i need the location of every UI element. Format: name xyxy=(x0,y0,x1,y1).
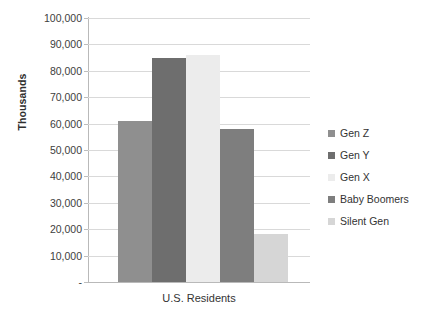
legend-swatch-icon xyxy=(328,152,335,159)
legend-label: Gen Z xyxy=(340,127,369,139)
y-axis-tick-label: 70,000 xyxy=(24,92,82,102)
x-axis-line xyxy=(88,282,310,283)
legend-item: Gen Z xyxy=(328,122,436,144)
legend-swatch-icon xyxy=(328,130,335,137)
y-axis-tick xyxy=(84,203,88,204)
y-axis-tick xyxy=(84,71,88,72)
chart-title xyxy=(0,0,438,1)
y-axis-tick-label: 30,000 xyxy=(24,198,82,208)
bar-gen-z xyxy=(118,121,152,282)
y-axis-tick-label: 50,000 xyxy=(24,145,82,155)
y-axis-tick-label: 10,000 xyxy=(24,251,82,261)
y-axis-tick-label: 90,000 xyxy=(24,39,82,49)
y-axis-tick xyxy=(84,18,88,19)
gridline xyxy=(88,18,310,19)
bar-silent-gen xyxy=(254,234,288,282)
legend-item: Gen Y xyxy=(328,144,436,166)
legend-label: Gen Y xyxy=(340,149,370,161)
y-axis-tick xyxy=(84,229,88,230)
y-axis-tick-label: 100,000 xyxy=(24,13,82,23)
x-axis-label: U.S. Residents xyxy=(88,292,310,304)
y-axis-tick xyxy=(84,124,88,125)
y-axis-tick xyxy=(84,256,88,257)
legend-swatch-icon xyxy=(328,218,335,225)
y-axis-tick xyxy=(84,44,88,45)
bar-gen-x xyxy=(186,55,220,282)
bar-gen-y xyxy=(152,58,186,282)
y-axis-tick-label: 80,000 xyxy=(24,66,82,76)
bar-baby-boomers xyxy=(220,129,254,282)
legend-item: Baby Boomers xyxy=(328,188,436,210)
y-axis-tick xyxy=(84,176,88,177)
y-axis-tick-label: 20,000 xyxy=(24,224,82,234)
gridline xyxy=(88,44,310,45)
legend-item: Silent Gen xyxy=(328,210,436,232)
y-axis-tick xyxy=(84,150,88,151)
legend-label: Baby Boomers xyxy=(340,193,409,205)
legend-swatch-icon xyxy=(328,174,335,181)
y-axis-tick-label: 40,000 xyxy=(24,171,82,181)
y-axis-tick xyxy=(84,97,88,98)
y-axis-tick-label: 60,000 xyxy=(24,119,82,129)
y-axis-tick xyxy=(84,282,88,283)
legend-label: Gen X xyxy=(340,171,370,183)
plot-area xyxy=(88,18,310,282)
y-axis-tick-label: - xyxy=(24,277,82,287)
legend-item: Gen X xyxy=(328,166,436,188)
chart-legend: Gen ZGen YGen XBaby BoomersSilent Gen xyxy=(328,122,436,232)
legend-swatch-icon xyxy=(328,196,335,203)
legend-label: Silent Gen xyxy=(340,215,389,227)
